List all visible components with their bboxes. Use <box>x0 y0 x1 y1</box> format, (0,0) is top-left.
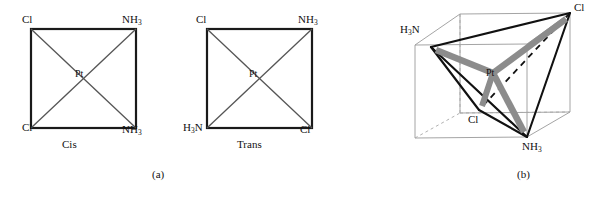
cube-edge-top-left <box>415 14 460 45</box>
panel-b-tetrahedral: H3N Cl Cl NH3 Pt (b) <box>390 0 599 199</box>
tetra-label-cl-top: Cl <box>574 2 584 13</box>
cis-label-bottom-right-nh3: NH3 <box>122 124 142 135</box>
trans-isomer-caption: Trans <box>237 138 262 150</box>
trans-label-bottom-left-h3n: H3N <box>183 122 203 133</box>
chemistry-figure: Cl NH3 Cl NH3 Pt Cis Cl NH3 H3N Cl Pt Tr… <box>0 0 599 199</box>
tetra-label-h3n: H3N <box>400 24 420 35</box>
cis-square-planar-structure <box>31 29 136 128</box>
pt-bond-to-h3n <box>436 50 493 73</box>
trans-label-top-right-nh3: NH3 <box>298 14 318 25</box>
cube-hidden-edge-bottom-left <box>415 113 460 138</box>
trans-label-bottom-right-cl: Cl <box>300 124 310 135</box>
cis-center-atom-pt: Pt <box>75 68 83 79</box>
tetra-label-nh3: NH3 <box>522 141 542 152</box>
tetra-label-cl-bottom: Cl <box>468 114 478 125</box>
trans-label-top-left-cl: Cl <box>196 14 206 25</box>
cis-label-top-right-nh3: NH3 <box>122 14 142 25</box>
cis-isomer-caption: Cis <box>62 138 77 150</box>
cis-label-top-left-cl: Cl <box>22 14 32 25</box>
tetra-center-atom-pt: Pt <box>486 67 494 78</box>
cis-label-bottom-left-cl: Cl <box>22 122 32 133</box>
pt-bond-to-nh3 <box>493 73 524 132</box>
trans-square-planar-structure <box>207 29 312 128</box>
panel-a-square-planar: Cl NH3 Cl NH3 Pt Cis Cl NH3 H3N Cl Pt Tr… <box>0 0 390 199</box>
panel-b-drawing <box>390 0 599 199</box>
pt-bond-to-cl-top <box>493 19 566 73</box>
panel-b-caption: (b) <box>517 168 530 180</box>
trans-center-atom-pt: Pt <box>249 68 257 79</box>
panel-a-drawing <box>0 0 390 199</box>
pt-center-bonds <box>436 19 566 132</box>
panel-a-caption: (a) <box>152 168 164 180</box>
